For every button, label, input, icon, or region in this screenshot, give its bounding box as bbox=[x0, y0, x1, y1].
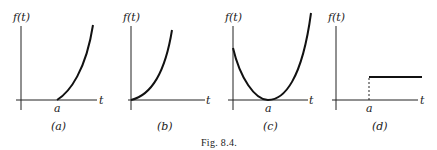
tick-label-a: a bbox=[265, 102, 272, 115]
x-axis-label: t bbox=[309, 94, 314, 107]
panel-sublabel: (c) bbox=[263, 120, 278, 133]
panel-b: f(t) t (b) bbox=[122, 11, 211, 133]
panel-a: f(t) t a (a) bbox=[12, 11, 104, 133]
curve bbox=[57, 25, 93, 100]
curve bbox=[131, 30, 172, 100]
figure-8-4: f(t) t a (a) f(t) t (b) f(t) t a (c) f(t… bbox=[0, 0, 437, 150]
x-axis-label: t bbox=[206, 94, 211, 107]
panel-sublabel: (d) bbox=[372, 120, 388, 133]
panel-d: f(t) t a (d) bbox=[327, 11, 425, 133]
panel-sublabel: (a) bbox=[51, 120, 66, 133]
y-axis-label: f(t) bbox=[224, 11, 242, 24]
panel-c: f(t) t a (c) bbox=[224, 11, 314, 133]
tick-label-a: a bbox=[366, 102, 373, 115]
y-axis-label: f(t) bbox=[327, 11, 345, 24]
panel-sublabel: (b) bbox=[157, 120, 173, 133]
y-axis-label: f(t) bbox=[12, 11, 30, 24]
curve bbox=[233, 13, 311, 100]
y-axis-label: f(t) bbox=[122, 11, 140, 24]
x-axis-label: t bbox=[420, 94, 425, 107]
figure-caption: Fig. 8.4. bbox=[201, 137, 237, 148]
x-axis-label: t bbox=[99, 94, 104, 107]
tick-label-a: a bbox=[54, 102, 61, 115]
